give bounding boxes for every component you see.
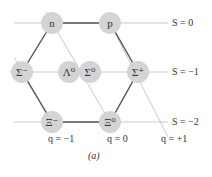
- label-q0: q = 0: [107, 133, 128, 144]
- node-sigma-plus: Σ⁺: [127, 61, 149, 83]
- node-sigma0: Σ⁰: [79, 61, 101, 83]
- node-sigma-minus: Σ⁻: [11, 61, 33, 83]
- node-n: n: [41, 12, 63, 34]
- label-s-2: S = −2: [172, 116, 199, 127]
- label-q1: q = +1: [161, 133, 187, 144]
- node-xi0: Ξ⁰: [99, 111, 121, 133]
- node-lambda0: Λ⁰: [58, 61, 80, 83]
- baryon-octet-diagram: n p Σ⁻ Λ⁰ Σ⁰ Σ⁺ Ξ⁻ Ξ⁰ S = 0 S = −1 S = −…: [0, 0, 212, 177]
- label-q-1: q = −1: [48, 133, 74, 144]
- caption: (a): [88, 150, 100, 161]
- node-p: p: [99, 12, 121, 34]
- label-s0: S = 0: [172, 17, 193, 28]
- node-xi-minus: Ξ⁻: [41, 111, 63, 133]
- label-s-1: S = −1: [172, 66, 199, 77]
